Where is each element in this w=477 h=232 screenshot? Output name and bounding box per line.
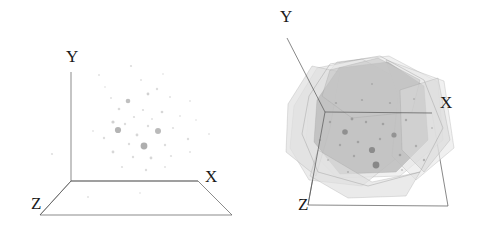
data-point <box>156 88 158 90</box>
data-point <box>361 99 363 101</box>
data-point <box>319 139 321 141</box>
data-point <box>423 159 425 161</box>
data-point <box>150 157 153 160</box>
data-point <box>401 169 403 171</box>
data-point <box>147 93 150 96</box>
data-point <box>98 74 100 76</box>
data-point <box>371 83 373 85</box>
data-point <box>373 162 380 169</box>
data-point <box>389 102 391 104</box>
data-point <box>136 134 139 137</box>
data-point <box>187 138 189 140</box>
data-point <box>130 65 132 67</box>
data-point <box>162 73 164 75</box>
data-point <box>379 138 381 140</box>
data-point <box>155 128 161 134</box>
data-point <box>208 133 210 135</box>
data-point <box>351 118 354 121</box>
data-point <box>195 119 197 121</box>
data-point <box>347 171 349 173</box>
data-point <box>51 153 53 155</box>
data-point <box>142 109 144 111</box>
data-point <box>87 196 89 198</box>
data-point <box>124 123 126 125</box>
data-point <box>126 99 131 104</box>
data-point <box>413 98 415 100</box>
left-axis-label-y: Y <box>66 47 78 66</box>
data-point <box>189 100 191 102</box>
data-point <box>431 127 433 129</box>
data-point <box>170 155 172 157</box>
data-point <box>369 147 375 153</box>
data-point <box>339 144 341 146</box>
data-point <box>92 130 94 132</box>
figure-canvas: X Y Z X Y Z <box>0 0 477 232</box>
data-point <box>147 125 149 127</box>
left-axis-label-x: X <box>205 167 217 186</box>
data-point <box>327 159 329 161</box>
data-point <box>189 151 191 153</box>
data-point <box>357 141 360 144</box>
data-point <box>115 127 121 133</box>
data-point <box>365 121 367 123</box>
data-point <box>145 169 147 171</box>
data-point <box>391 132 396 137</box>
data-point <box>179 115 181 117</box>
data-point <box>164 144 166 146</box>
data-point <box>329 121 331 123</box>
right-axis-label-y: Y <box>280 7 292 26</box>
right-axis-label-z: Z <box>298 195 308 214</box>
data-point <box>335 102 337 104</box>
data-point <box>140 79 142 81</box>
data-point <box>169 96 171 98</box>
data-point <box>121 166 123 168</box>
data-point <box>164 166 166 168</box>
data-point <box>112 151 115 154</box>
data-point <box>151 118 153 120</box>
data-point <box>342 129 348 135</box>
data-point <box>128 143 130 145</box>
data-point <box>139 192 141 194</box>
data-point <box>405 119 407 121</box>
data-point <box>118 108 121 111</box>
data-point <box>399 154 402 157</box>
data-point <box>132 156 134 158</box>
data-point <box>103 137 105 139</box>
data-point <box>161 111 164 114</box>
data-point <box>111 120 114 123</box>
data-point <box>172 127 174 129</box>
data-point <box>382 123 385 126</box>
data-point <box>104 86 106 88</box>
left-axis-label-z: Z <box>31 194 41 213</box>
right-axis-label-x: X <box>440 93 452 112</box>
data-point <box>133 116 135 118</box>
data-point <box>141 143 148 150</box>
data-point <box>353 155 355 157</box>
data-point <box>415 145 417 147</box>
data-point <box>110 97 112 99</box>
